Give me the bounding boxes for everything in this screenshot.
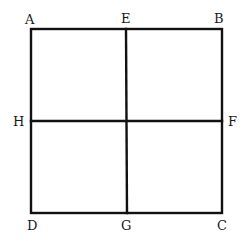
label-g: G [121, 218, 131, 233]
label-d: D [27, 218, 37, 233]
square-diagram: A E B H F D G C [0, 0, 248, 241]
label-b: B [214, 11, 224, 26]
label-e: E [121, 11, 131, 26]
label-a: A [24, 12, 35, 27]
label-f: F [228, 114, 237, 129]
label-h: H [13, 114, 24, 129]
label-c: C [217, 218, 227, 233]
